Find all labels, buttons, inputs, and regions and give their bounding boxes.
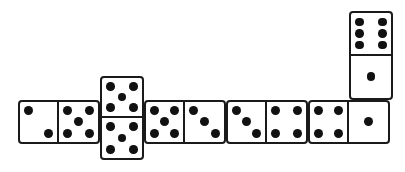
- pip-cell: [270, 128, 281, 139]
- pip-dot: [150, 106, 159, 115]
- pip-cell: [252, 128, 262, 139]
- pip-cell: [354, 71, 365, 83]
- pip-cell: [292, 105, 303, 116]
- pip-cell: [116, 81, 127, 92]
- domino-3-4[interactable]: [226, 100, 308, 144]
- pip-dot: [364, 117, 373, 126]
- domino-6-1-half-2: [351, 56, 391, 99]
- pip-cell: [377, 83, 388, 95]
- pip-cell: [363, 105, 374, 116]
- pip-cell: [352, 105, 363, 116]
- pip-cell: [365, 28, 376, 40]
- pip-cell: [363, 116, 374, 127]
- pip-cell: [365, 59, 376, 71]
- pip-cell: [149, 128, 159, 139]
- domino-2-5-half-1: [20, 102, 59, 142]
- pip-cell: [105, 132, 116, 143]
- domino-5-3-half-2: [185, 102, 224, 142]
- pip-dot: [106, 145, 115, 154]
- pip-grid-4: [310, 102, 347, 142]
- pip-cell: [270, 116, 281, 127]
- pip-dot: [85, 129, 94, 138]
- pip-dot: [334, 106, 343, 115]
- domino-3-4-half-2: [267, 102, 306, 142]
- pip-cell: [270, 105, 281, 116]
- pip-cell: [323, 105, 333, 116]
- domino-4-1-half-1: [310, 102, 349, 142]
- domino-6-1-half-1: [351, 13, 391, 56]
- pip-grid-3: [228, 102, 265, 142]
- pip-cell: [352, 116, 363, 127]
- pip-dot: [378, 18, 387, 27]
- domino-5-5-half-2: [102, 118, 142, 158]
- pip-cell: [116, 92, 127, 103]
- pip-cell: [281, 105, 292, 116]
- pip-cell: [374, 105, 385, 116]
- domino-4-1[interactable]: [308, 100, 390, 144]
- pip-cell: [128, 121, 139, 132]
- pip-grid-1: [349, 102, 388, 142]
- pip-cell: [149, 116, 159, 127]
- pip-cell: [33, 105, 43, 116]
- pip-dot: [355, 29, 364, 38]
- pip-cell: [44, 128, 54, 139]
- pip-cell: [170, 128, 180, 139]
- pip-cell: [210, 116, 221, 127]
- pip-cell: [210, 105, 221, 116]
- pip-grid-2: [20, 102, 57, 142]
- domino-6-1[interactable]: [349, 11, 393, 100]
- pip-cell: [84, 105, 95, 116]
- pip-cell: [354, 83, 365, 95]
- pip-dot: [160, 117, 169, 126]
- pip-cell: [23, 105, 33, 116]
- pip-cell: [159, 128, 169, 139]
- pip-cell: [199, 128, 210, 139]
- pip-cell: [73, 116, 84, 127]
- domino-5-3[interactable]: [144, 100, 226, 144]
- pip-cell: [292, 116, 303, 127]
- pip-dot: [211, 129, 220, 138]
- pip-dot: [271, 106, 280, 115]
- pip-cell: [374, 128, 385, 139]
- domino-5-5[interactable]: [100, 76, 144, 160]
- pip-cell: [313, 128, 323, 139]
- domino-3-4-half-1: [228, 102, 267, 142]
- pip-cell: [33, 116, 43, 127]
- pip-cell: [281, 128, 292, 139]
- pip-cell: [105, 121, 116, 132]
- pip-dot: [242, 117, 251, 126]
- pip-cell: [334, 116, 344, 127]
- pip-cell: [44, 116, 54, 127]
- pip-cell: [116, 121, 127, 132]
- domino-2-5[interactable]: [18, 100, 100, 144]
- pip-dot: [252, 129, 261, 138]
- pip-grid-1: [351, 56, 391, 99]
- pip-cell: [365, 16, 376, 28]
- pip-cell: [73, 105, 84, 116]
- pip-dot: [367, 72, 376, 81]
- pip-dot: [63, 106, 72, 115]
- domino-2-5-half-2: [59, 102, 98, 142]
- pip-cell: [241, 105, 251, 116]
- pip-cell: [377, 71, 388, 83]
- pip-dot: [170, 106, 179, 115]
- pip-grid-5: [102, 78, 142, 116]
- pip-dot: [334, 129, 343, 138]
- pip-cell: [365, 39, 376, 51]
- pip-dot: [189, 106, 198, 115]
- pip-cell: [170, 116, 180, 127]
- pip-grid-6: [351, 13, 391, 54]
- pip-dot: [44, 129, 53, 138]
- pip-cell: [334, 105, 344, 116]
- pip-cell: [377, 16, 388, 28]
- pip-cell: [199, 105, 210, 116]
- pip-cell: [231, 116, 241, 127]
- pip-cell: [33, 128, 43, 139]
- pip-cell: [241, 116, 251, 127]
- pip-dot: [378, 29, 387, 38]
- pip-cell: [128, 132, 139, 143]
- pip-cell: [116, 132, 127, 143]
- pip-cell: [188, 105, 199, 116]
- pip-dot: [271, 129, 280, 138]
- pip-cell: [188, 128, 199, 139]
